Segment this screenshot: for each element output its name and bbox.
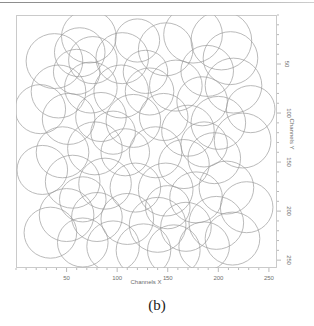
- y-axis-title: Channels Y: [289, 119, 295, 150]
- figure-panel-b: 50100150200250 50100150200250 Channels X…: [0, 0, 314, 326]
- y-axis-minor-ticks: [277, 15, 279, 250]
- y-tick-label: 250: [284, 257, 294, 263]
- x-axis-title: Channels X: [130, 279, 161, 285]
- circles-plot-svg: [16, 15, 277, 268]
- plot-area: [16, 15, 277, 268]
- x-tick-label: 50: [63, 275, 69, 281]
- x-tick-label: 150: [163, 275, 173, 281]
- x-tick-label: 200: [213, 275, 223, 281]
- x-tick-label: 100: [112, 275, 122, 281]
- page-top-rule: [0, 2, 314, 3]
- x-tick-label: 250: [264, 275, 274, 281]
- x-axis-major-ticks: [67, 268, 269, 272]
- y-tick-label: 100: [284, 110, 294, 116]
- y-tick-label: 200: [284, 208, 294, 214]
- y-tick-label: 150: [284, 159, 294, 165]
- figure-caption: (b): [148, 297, 166, 314]
- x-axis-minor-ticks: [16, 268, 259, 270]
- y-axis-major-ticks: [277, 64, 281, 260]
- y-tick-label: 50: [284, 61, 290, 67]
